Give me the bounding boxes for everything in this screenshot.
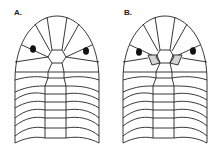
- scale-row-1: [123, 58, 207, 72]
- right-eye-icon: [190, 47, 196, 55]
- right-eye-icon: [83, 47, 89, 55]
- scale-row-1: [15, 57, 99, 72]
- scale-row-5: [123, 110, 207, 143]
- panel-a-head: [15, 16, 99, 143]
- scale-row-4: [15, 94, 99, 118]
- central-scale: [156, 50, 174, 63]
- scale-row-3: [15, 86, 99, 100]
- scale-row-3: [123, 86, 207, 100]
- panel-b-head: [123, 16, 207, 143]
- scale-row-5: [15, 110, 99, 143]
- scale-row-2: [123, 72, 207, 86]
- left-eye-icon: [30, 45, 36, 53]
- scale-row-2: [15, 72, 99, 86]
- head-outline: [15, 16, 99, 143]
- head-scale-diagram: [0, 0, 220, 154]
- scale-row-4: [123, 94, 207, 118]
- left-eye-icon: [136, 48, 142, 56]
- head-outline: [123, 16, 207, 143]
- central-scale: [48, 50, 66, 63]
